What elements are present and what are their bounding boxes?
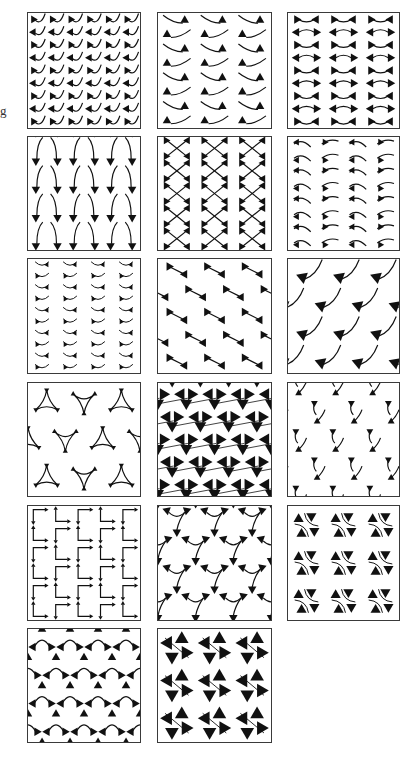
- pattern-panel-5: [157, 136, 272, 251]
- pattern-panel-7: [27, 258, 141, 374]
- kagome-triangles-pattern: [158, 383, 271, 496]
- pattern-panel-17: [157, 628, 272, 743]
- scattered-flags-pattern: [288, 383, 399, 496]
- zigzag-triangles-pattern: [28, 13, 140, 128]
- v-horns-pattern: [28, 137, 140, 250]
- crossed-bowtie-pattern: [158, 137, 271, 250]
- pattern-panel-8: [157, 258, 272, 374]
- eye-hooks-pattern: [288, 137, 399, 250]
- bowtie-wave-pattern: [288, 13, 399, 128]
- pattern-panel-15: [287, 505, 400, 621]
- arch-triangles-pattern: [28, 629, 140, 742]
- pattern-panel-11: [157, 382, 272, 497]
- pattern-panel-9: [287, 258, 400, 374]
- triangle-frames-pattern: [28, 383, 140, 496]
- hook-triangle-pattern: [158, 13, 271, 128]
- pattern-panel-2: [157, 12, 272, 129]
- edge-text-fragment: g: [0, 104, 7, 117]
- pattern-panel-4: [27, 136, 141, 251]
- diagonal-bowtie-pattern: [158, 259, 271, 373]
- small-hooks-pattern: [28, 259, 140, 373]
- pattern-panel-16: [27, 628, 141, 743]
- tri-curves-pattern: [158, 506, 271, 620]
- quad-rosette-pattern: [288, 506, 399, 620]
- pattern-panel-13: [27, 505, 141, 621]
- pattern-panel-14: [157, 505, 272, 621]
- square-corners-pattern: [28, 506, 140, 620]
- pattern-panel-3: [287, 12, 400, 129]
- fin-arc-pattern: [288, 259, 399, 373]
- pattern-panel-12: [287, 382, 400, 497]
- pattern-panel-6: [287, 136, 400, 251]
- pattern-panel-1: [27, 12, 141, 129]
- pinwheel-pattern: [158, 629, 271, 742]
- pattern-panel-10: [27, 382, 141, 497]
